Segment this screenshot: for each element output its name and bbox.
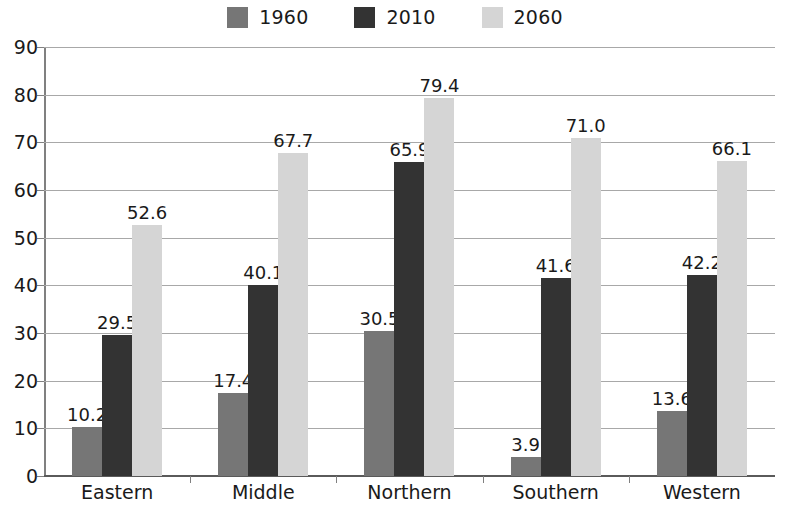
bar-value-label: 52.6: [127, 204, 167, 222]
legend-swatch-2010: [354, 7, 375, 28]
y-tick-30: [37, 333, 44, 334]
legend-label: 1960: [259, 8, 308, 27]
x-tick: [629, 476, 630, 483]
legend-item-1960: 1960: [227, 7, 308, 28]
y-tick-40: [37, 285, 44, 286]
bar-value-label: 67.7: [273, 132, 313, 150]
y-tick-70: [37, 142, 44, 143]
bar-groups: 10.229.552.617.440.167.730.565.979.43.94…: [44, 47, 775, 476]
chart-legend: 196020102060: [0, 0, 790, 34]
legend-label: 2010: [386, 8, 435, 27]
x-tick: [336, 476, 337, 483]
x-axis-label-western: Western: [629, 483, 775, 502]
x-tick: [190, 476, 191, 483]
y-tick-label: 60: [0, 181, 38, 200]
legend-swatch-1960: [227, 7, 248, 28]
x-axis-label-middle: Middle: [190, 483, 336, 502]
legend-label: 2060: [514, 8, 563, 27]
bar-value-label: 66.1: [712, 140, 752, 158]
bar-group-middle: 17.440.167.7: [190, 47, 336, 476]
bar-southern-2010: 41.6: [541, 278, 571, 476]
legend-item-2060: 2060: [482, 7, 563, 28]
y-tick-10: [37, 428, 44, 429]
legend-swatch-2060: [482, 7, 503, 28]
x-tick: [483, 476, 484, 483]
y-tick-90: [37, 47, 44, 48]
bar-group-western: 13.642.266.1: [629, 47, 775, 476]
bar-western-1960: 13.6: [657, 411, 687, 476]
bar-western-2010: 42.2: [687, 275, 717, 476]
y-tick-label: 90: [0, 38, 38, 57]
bar-value-label: 71.0: [566, 117, 606, 135]
y-tick-80: [37, 95, 44, 96]
bar-southern-2060: 71.0: [571, 138, 601, 476]
y-tick-label: 30: [0, 324, 38, 343]
bar-group-southern: 3.941.671.0: [483, 47, 629, 476]
bar-group-eastern: 10.229.552.6: [44, 47, 190, 476]
y-tick-label: 40: [0, 276, 38, 295]
bar-value-label: 79.4: [419, 77, 459, 95]
bar-eastern-2060: 52.6: [132, 225, 162, 476]
y-tick-20: [37, 381, 44, 382]
bar-group-northern: 30.565.979.4: [336, 47, 482, 476]
plot-area: 10.229.552.617.440.167.730.565.979.43.94…: [44, 47, 775, 476]
y-tick-label: 50: [0, 229, 38, 248]
bar-middle-2060: 67.7: [278, 153, 308, 476]
bar-middle-1960: 17.4: [218, 393, 248, 476]
y-tick-label: 0: [0, 467, 38, 486]
bar-chart: 196020102060 10.229.552.617.440.167.730.…: [0, 0, 790, 510]
y-tick-0: [37, 476, 44, 477]
x-axis-label-southern: Southern: [483, 483, 629, 502]
bar-northern-1960: 30.5: [364, 331, 394, 476]
bar-value-label: 3.9: [511, 436, 540, 454]
y-tick-60: [37, 190, 44, 191]
bar-eastern-1960: 10.2: [72, 427, 102, 476]
y-tick-label: 70: [0, 133, 38, 152]
bar-northern-2060: 79.4: [424, 98, 454, 476]
bar-northern-2010: 65.9: [394, 162, 424, 476]
x-axis-label-northern: Northern: [336, 483, 482, 502]
legend-item-2010: 2010: [354, 7, 435, 28]
bar-southern-1960: 3.9: [511, 457, 541, 476]
bar-western-2060: 66.1: [717, 161, 747, 476]
y-tick-label: 80: [0, 86, 38, 105]
bar-middle-2010: 40.1: [248, 285, 278, 476]
y-tick-label: 10: [0, 419, 38, 438]
bar-eastern-2010: 29.5: [102, 335, 132, 476]
y-tick-50: [37, 238, 44, 239]
y-tick-label: 20: [0, 372, 38, 391]
x-axis-label-eastern: Eastern: [44, 483, 190, 502]
